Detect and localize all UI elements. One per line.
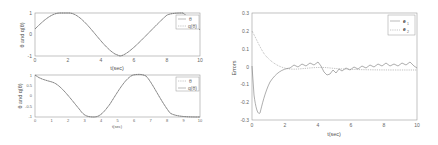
xtick: 6 (133, 57, 136, 63)
xtick: 7 (149, 118, 152, 123)
y-axis-label: θ and q(θ) (17, 83, 23, 108)
xtick: 10 (414, 122, 420, 128)
x-axis-label: t(sec) (110, 65, 124, 71)
legend: θ q(θ) (176, 15, 199, 29)
xtick: 4 (100, 118, 103, 123)
ytick: -0.3 (240, 117, 249, 123)
xtick: 8 (383, 122, 386, 128)
xtick: 4 (100, 57, 103, 63)
theta-line (35, 74, 200, 117)
ytick: -0.2 (240, 99, 249, 105)
xtick: 2 (67, 118, 70, 123)
figure: 1 0 -1 0 2 4 6 8 10 t(sec) θ and q(θ) θ … (0, 0, 438, 145)
x-axis-label: t(sec) (327, 131, 341, 137)
ytick: -1 (28, 114, 32, 119)
legend-item: θ (189, 16, 192, 22)
x-axis-label: t(sec) (112, 124, 123, 129)
ytick: 0 (246, 64, 249, 70)
xtick: 6 (133, 118, 136, 123)
y-axis-label: Errors (231, 60, 237, 75)
xtick: 0 (34, 57, 37, 63)
xtick: 0 (251, 122, 254, 128)
theta-line (35, 13, 200, 56)
plot-frame (35, 13, 200, 56)
ytick: -1 (28, 53, 33, 59)
ytick: -0.5 (25, 104, 33, 109)
legend-item: q(θ) (188, 85, 197, 91)
plot-frame (35, 75, 200, 117)
xtick: 8 (166, 57, 169, 63)
xtick: 10 (198, 118, 203, 123)
legend: θ q(θ) (176, 77, 199, 91)
plot-top-left: 1 0 -1 0 2 4 6 8 10 t(sec) θ and q(θ) θ … (19, 10, 203, 71)
ytick: 1 (30, 73, 33, 78)
xtick: 0 (34, 118, 37, 123)
xtick: 6 (350, 122, 353, 128)
xtick: 8 (166, 118, 169, 123)
legend-item: θ (189, 78, 192, 84)
xtick: 1 (50, 118, 53, 123)
xtick: 5 (116, 118, 119, 123)
plot-bottom-left: 1 0.5 0 -0.5 -1 0 1 2 3 4 5 6 7 8 9 10 t… (17, 73, 203, 129)
ytick: 0.1 (242, 46, 249, 52)
legend-item: e (403, 18, 406, 24)
xtick: 3 (83, 118, 86, 123)
legend-subscript: 2 (407, 30, 409, 34)
xtick: 2 (284, 122, 287, 128)
plot-errors: 0.3 0.2 0.1 0 -0.1 -0.2 -0.3 0 2 4 6 8 1… (231, 10, 420, 137)
ytick: 1 (29, 10, 32, 16)
legend-item: e (403, 26, 406, 32)
xtick: 9 (182, 118, 185, 123)
ytick: 0 (30, 93, 33, 98)
ytick: 0.5 (26, 83, 32, 88)
ytick: 0 (29, 31, 32, 37)
legend: e 1 e 2 (388, 15, 415, 35)
ytick: 0.2 (242, 28, 249, 34)
y-axis-label: θ and q(θ) (19, 22, 25, 47)
legend-subscript: 1 (407, 22, 409, 26)
xtick: 10 (197, 57, 203, 63)
q-theta-line (35, 74, 200, 117)
e1-line (252, 62, 417, 113)
ytick: 0.3 (242, 10, 249, 16)
q-theta-line (35, 13, 200, 56)
e2-line (252, 31, 417, 70)
xtick: 2 (67, 57, 70, 63)
ytick: -0.1 (240, 81, 249, 87)
xtick: 4 (317, 122, 320, 128)
legend-item: q(θ) (188, 23, 197, 29)
